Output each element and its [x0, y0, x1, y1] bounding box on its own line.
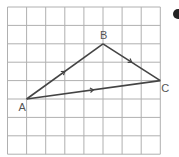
- point-label-c: C: [161, 82, 169, 94]
- point-label-a: A: [19, 101, 27, 113]
- vector-diagram: A B C: [0, 0, 179, 157]
- bullet-dot-icon: [173, 9, 179, 19]
- point-labels: A B C: [19, 29, 170, 113]
- triangle-vectors: [27, 44, 161, 99]
- point-label-b: B: [100, 29, 107, 41]
- grid: [8, 7, 161, 154]
